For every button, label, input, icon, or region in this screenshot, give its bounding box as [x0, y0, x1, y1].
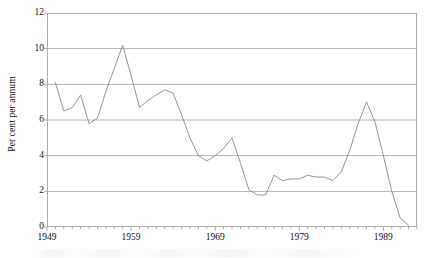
x-axis-minor-tick [164, 227, 165, 229]
x-axis-minor-tick [375, 227, 376, 229]
x-axis-minor-tick [72, 227, 73, 229]
x-axis-major-tick [299, 227, 300, 231]
x-axis-minor-ticks [55, 227, 417, 229]
x-axis-minor-tick [265, 227, 266, 229]
x-axis-minor-tick [80, 227, 81, 229]
axis-frame-bottom [47, 226, 417, 227]
x-axis-minor-tick [333, 227, 334, 229]
y-axis-tick [44, 227, 47, 228]
x-axis-minor-tick [358, 227, 359, 229]
y-axis-tick [44, 84, 47, 85]
x-axis-minor-tick [417, 227, 418, 229]
x-axis-minor-tick [349, 227, 350, 229]
x-axis-minor-tick [63, 227, 64, 229]
x-axis-minor-tick [190, 227, 191, 229]
gridline [47, 191, 417, 192]
chart-plot-area [0, 0, 435, 258]
x-axis-minor-tick [232, 227, 233, 229]
axis-frame-left [47, 13, 48, 227]
x-axis-minor-tick [148, 227, 149, 229]
x-axis-minor-tick [173, 227, 174, 229]
x-axis-minor-tick [316, 227, 317, 229]
x-axis-minor-tick [240, 227, 241, 229]
y-axis-tick [44, 120, 47, 121]
gridline [47, 84, 417, 85]
data-series-line [55, 45, 408, 225]
x-axis-minor-tick [274, 227, 275, 229]
y-axis-tick [44, 155, 47, 156]
x-axis-minor-tick [206, 227, 207, 229]
x-axis-minor-tick [156, 227, 157, 229]
x-axis-minor-tick [324, 227, 325, 229]
x-axis-minor-tick [307, 227, 308, 229]
gridline [47, 48, 417, 49]
gridline [47, 120, 417, 121]
x-axis-minor-tick [181, 227, 182, 229]
x-axis-minor-tick [391, 227, 392, 229]
x-axis-minor-tick [105, 227, 106, 229]
x-axis-minor-tick [282, 227, 283, 229]
x-axis-minor-tick [223, 227, 224, 229]
gridlines [47, 48, 417, 191]
x-axis-minor-tick [97, 227, 98, 229]
x-axis-minor-tick [248, 227, 249, 229]
x-axis-minor-tick [408, 227, 409, 229]
x-axis-minor-tick [139, 227, 140, 229]
x-axis-minor-tick [400, 227, 401, 229]
y-axis-tick [44, 191, 47, 192]
axis-major-ticks [44, 13, 384, 231]
axis-frame-top [47, 13, 417, 14]
x-axis-minor-tick [290, 227, 291, 229]
x-axis-minor-tick [55, 227, 56, 229]
x-axis-major-tick [47, 227, 48, 231]
y-axis-tick [44, 13, 47, 14]
chart-figure: Per cent per annum 024681012 19491959196… [0, 0, 435, 258]
x-axis-major-tick [383, 227, 384, 231]
x-axis-minor-tick [114, 227, 115, 229]
x-axis-minor-tick [341, 227, 342, 229]
x-axis-major-tick [215, 227, 216, 231]
x-axis-major-tick [131, 227, 132, 231]
y-axis-tick [44, 48, 47, 49]
x-axis-minor-tick [198, 227, 199, 229]
gridline [47, 155, 417, 156]
x-axis-minor-tick [122, 227, 123, 229]
axis-frame-right [416, 13, 417, 227]
x-axis-minor-tick [89, 227, 90, 229]
x-axis-minor-tick [257, 227, 258, 229]
x-axis-minor-tick [366, 227, 367, 229]
